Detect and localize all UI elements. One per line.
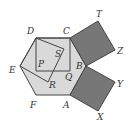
label-T: T	[96, 10, 102, 19]
label-E: E	[9, 66, 16, 75]
label-S: S	[55, 50, 61, 59]
label-X: X	[97, 113, 103, 122]
label-D: D	[27, 27, 34, 36]
label-R: R	[49, 81, 56, 90]
label-A: A	[63, 101, 70, 110]
label-B: B	[76, 62, 83, 71]
label-F: F	[30, 101, 36, 110]
label-Y: Y	[117, 80, 123, 89]
label-Q: Q	[65, 73, 72, 82]
label-P: P	[38, 60, 44, 69]
label-C: C	[63, 27, 70, 36]
label-Z: Z	[117, 47, 123, 56]
geometry-diagram: D C T Z S P B E Q R Y F A X	[0, 0, 131, 128]
